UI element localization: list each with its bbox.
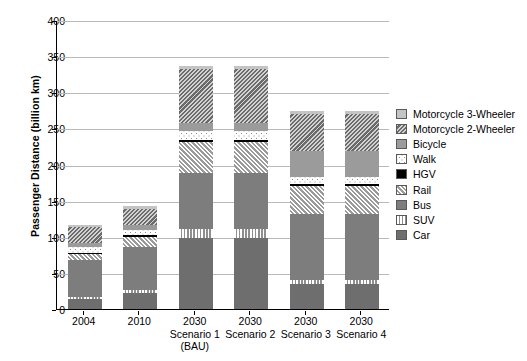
bar-5[interactable] (290, 111, 324, 309)
gridline (57, 57, 389, 58)
legend-item-suv[interactable]: SUV (396, 212, 515, 227)
gridline (57, 93, 389, 94)
bar-segment-rail[interactable] (234, 142, 268, 173)
bar-segment-motorcycle-2-wheeler[interactable] (68, 227, 102, 244)
legend-swatch-icon (396, 154, 407, 164)
x-axis-tick-mark (138, 311, 139, 315)
legend-item-bicycle[interactable]: Bicycle (396, 136, 515, 151)
legend-item-label: SUV (413, 214, 435, 226)
bar-segment-rail[interactable] (123, 237, 157, 247)
bar-segment-bicycle[interactable] (234, 123, 268, 131)
legend-item-rail[interactable]: Rail (396, 182, 515, 197)
bar-segment-bus[interactable] (68, 260, 102, 297)
bar-segment-motorcycle-2-wheeler[interactable] (123, 209, 157, 226)
x-axis-tick-mark (249, 311, 250, 315)
legend-item-bus[interactable]: Bus (396, 197, 515, 212)
bar-segment-bus[interactable] (345, 214, 379, 280)
x-axis-tick-mark (194, 311, 195, 315)
x-axis-label-line: Scenario 4 (316, 328, 406, 341)
bar-segment-walk[interactable] (345, 177, 379, 184)
legend-item-label: Bus (413, 199, 431, 211)
bar-segment-car[interactable] (345, 284, 379, 309)
x-axis-label-6: 2030Scenario 4 (316, 315, 406, 340)
bar-6[interactable] (345, 111, 379, 309)
gridline (57, 274, 389, 275)
legend-item-label: Car (413, 229, 430, 241)
legend-swatch-icon (396, 109, 407, 119)
legend-item-label: Bicycle (413, 138, 446, 150)
bar-segment-rail[interactable] (345, 186, 379, 213)
bar-segment-rail[interactable] (290, 186, 324, 213)
bar-segment-motorcycle-2-wheeler[interactable] (234, 69, 268, 123)
legend-swatch-icon (396, 139, 407, 149)
legend-item-motorcycle-3-wheeler[interactable]: Motorcycle 3-Wheeler (396, 106, 515, 121)
plot-area (56, 21, 389, 310)
bar-segment-motorcycle-2-wheeler[interactable] (179, 69, 213, 123)
legend-swatch-icon (396, 230, 407, 240)
bar-segment-motorcycle-2-wheeler[interactable] (290, 114, 324, 151)
bar-segment-bus[interactable] (123, 247, 157, 290)
legend-item-hgv[interactable]: HGV (396, 167, 515, 182)
bar-segment-suv[interactable] (179, 229, 213, 238)
x-axis-tick-mark (83, 311, 84, 315)
legend-item-label: Walk (413, 153, 436, 165)
bar-segment-bicycle[interactable] (290, 151, 324, 177)
x-axis-label-line: 2030 (316, 315, 406, 328)
bar-segment-bus[interactable] (179, 173, 213, 229)
gridline (57, 238, 389, 239)
bar-segment-walk[interactable] (290, 177, 324, 184)
bar-segment-walk[interactable] (179, 131, 213, 140)
legend: Motorcycle 3-WheelerMotorcycle 2-Wheeler… (396, 106, 515, 243)
bar-segment-rail[interactable] (179, 142, 213, 173)
bar-3[interactable] (179, 66, 213, 309)
bar-segment-bicycle[interactable] (179, 123, 213, 131)
legend-item-label: Rail (413, 184, 431, 196)
legend-swatch-icon (396, 185, 407, 195)
gridline (57, 202, 389, 203)
legend-swatch-icon (396, 215, 407, 225)
gridline (57, 129, 389, 130)
bar-1[interactable] (68, 225, 102, 309)
legend-swatch-icon (396, 124, 407, 134)
bar-segment-car[interactable] (234, 238, 268, 309)
legend-item-label: HGV (413, 168, 436, 180)
bar-segment-car[interactable] (179, 238, 213, 309)
x-axis-tick-mark (360, 311, 361, 315)
bar-segment-car[interactable] (68, 299, 102, 309)
legend-swatch-icon (396, 169, 407, 179)
legend-item-car[interactable]: Car (396, 228, 515, 243)
bar-4[interactable] (234, 66, 268, 309)
bar-segment-walk[interactable] (234, 131, 268, 140)
bar-2[interactable] (123, 206, 157, 309)
y-axis-tick-mark (52, 310, 56, 311)
bar-segment-bicycle[interactable] (345, 151, 379, 177)
legend-item-label: Motorcycle 3-Wheeler (413, 108, 515, 120)
x-axis-label-line: (BAU) (150, 340, 240, 353)
bar-segment-bus[interactable] (234, 173, 268, 229)
legend-item-walk[interactable]: Walk (396, 152, 515, 167)
legend-item-motorcycle-2-wheeler[interactable]: Motorcycle 2-Wheeler (396, 121, 515, 136)
bar-segment-bus[interactable] (290, 214, 324, 280)
legend-item-label: Motorcycle 2-Wheeler (413, 123, 515, 135)
x-axis-tick-mark (305, 311, 306, 315)
gridline (57, 21, 389, 22)
legend-swatch-icon (396, 200, 407, 210)
bar-segment-suv[interactable] (234, 229, 268, 238)
stacked-bar-chart: Passenger Distance (billion km) 05010015… (0, 0, 527, 361)
bar-segment-motorcycle-2-wheeler[interactable] (345, 114, 379, 151)
bar-segment-car[interactable] (123, 293, 157, 309)
bar-segment-car[interactable] (290, 284, 324, 309)
gridline (57, 166, 389, 167)
